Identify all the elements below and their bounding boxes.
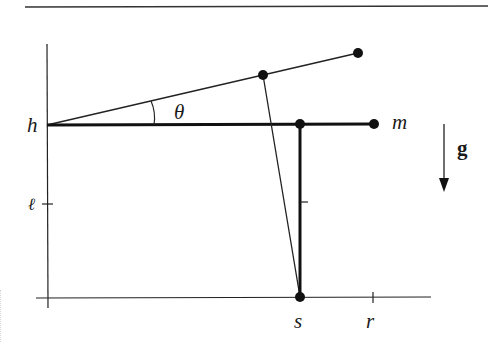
label-s: s	[294, 309, 302, 333]
dot-post-top	[295, 119, 305, 129]
label-ell: ℓ	[28, 195, 35, 214]
label-m: m	[392, 110, 407, 134]
horizontal-axis	[36, 297, 431, 298]
arm-tilted	[47, 53, 358, 125]
label-h: h	[27, 113, 38, 137]
dot-tilted-end	[353, 48, 363, 58]
dot-mass-m	[369, 119, 379, 129]
dot-base-s	[295, 292, 305, 302]
label-r: r	[366, 309, 375, 333]
dot-tilted-joint	[258, 70, 268, 80]
link	[263, 75, 300, 297]
top-rule	[25, 6, 488, 7]
arm-horizontal	[47, 124, 374, 125]
theta-arc	[151, 101, 155, 125]
gravity-arrow-head	[439, 178, 449, 192]
pendulum-diagram: h θ m g ℓ s r	[0, 0, 488, 342]
label-g: g	[457, 136, 468, 160]
label-theta: θ	[174, 100, 184, 124]
vertical-axis	[47, 44, 48, 308]
